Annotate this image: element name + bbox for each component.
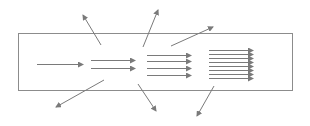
arrow-down-right-icon — [138, 84, 156, 111]
arrow-up-right-icon — [143, 10, 158, 47]
group-2-lines — [91, 61, 135, 69]
group-8-lines — [209, 51, 253, 79]
arrow-up-left-icon — [83, 15, 101, 45]
diagonal-arrows — [56, 10, 214, 116]
arrow-down-left-icon — [56, 80, 104, 107]
flow-diagram — [0, 0, 310, 126]
diagram-canvas — [0, 0, 310, 126]
group-4-lines — [147, 56, 191, 76]
arrow-right-up-icon — [171, 27, 213, 46]
horizontal-arrow-groups — [37, 51, 253, 79]
